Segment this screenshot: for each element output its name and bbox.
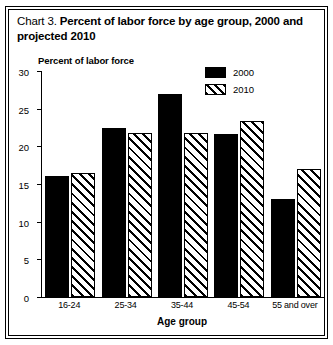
y-axis-tick-label: 15 [18,180,29,191]
bar-2010-16-24 [71,173,95,297]
bar-2010-55-and-over [297,169,321,297]
x-axis-tick-label: 35-44 [154,300,210,310]
x-axis-tick-label: 25-34 [97,300,153,310]
chart-title-text: Percent of labor force by age group, 200… [17,15,303,42]
x-axis-tick-label: 16-24 [41,300,97,310]
bar-group [155,71,211,297]
y-axis-tick-label: 25 [18,104,29,115]
chart-title-number: Chart 3. [17,15,57,27]
y-axis-tick-label: 10 [18,217,29,228]
chart-title: Chart 3. Percent of labor force by age g… [17,14,317,43]
bar-groups [42,71,324,297]
bar-2000-16-24 [45,176,69,297]
bar-2010-35-44 [184,133,208,297]
plot-area: 051015202530 [41,71,324,298]
bar-2000-25-34 [102,128,126,298]
x-axis-label: Age group [41,316,323,327]
bar-2000-45-54 [214,134,238,297]
bar-2000-55-and-over [271,199,295,297]
bar-group [98,71,154,297]
bar-group [211,71,267,297]
bar-group [42,71,98,297]
y-axis-tick-label: 0 [24,293,29,304]
y-axis-tick-label: 5 [24,255,29,266]
bar-2010-45-54 [240,121,264,297]
y-axis-tick: 0 [37,297,42,298]
y-axis-tick-label: 30 [18,67,29,78]
chart-figure: Chart 3. Percent of labor force by age g… [0,0,333,345]
bar-group [268,71,324,297]
y-axis-label: Percent of labor force [38,55,134,66]
x-axis-tick-label: 45-54 [210,300,266,310]
bar-2010-25-34 [128,133,152,297]
x-axis-tick-label: 55 and over [267,300,323,310]
x-axis-tick-labels: 16-2425-3435-4445-5455 and over [41,300,323,310]
bar-2000-35-44 [158,94,182,297]
y-axis-tick-label: 20 [18,142,29,153]
